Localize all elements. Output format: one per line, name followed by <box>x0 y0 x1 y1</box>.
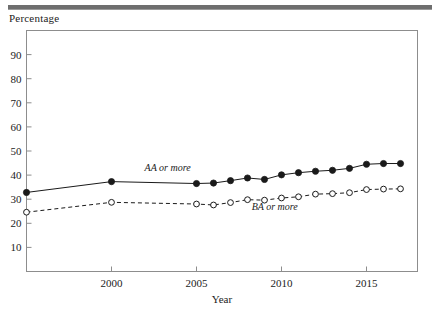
figure-container: Percentage 102030405060708090 2000200520… <box>0 0 438 312</box>
data-point-marker <box>261 176 267 182</box>
series-label: BA or more <box>252 201 299 212</box>
y-tick-label: 10 <box>11 241 23 253</box>
data-point-marker <box>346 165 352 171</box>
x-tick-label: 2010 <box>271 277 294 289</box>
data-point-marker <box>278 172 284 178</box>
data-point-marker <box>381 186 387 192</box>
data-point-marker <box>329 167 335 173</box>
data-point-marker <box>244 175 250 181</box>
data-point-marker <box>108 179 114 185</box>
y-tick-label: 60 <box>11 121 23 133</box>
data-point-marker <box>193 180 199 186</box>
x-tick-label: 2015 <box>356 277 379 289</box>
y-tick-label: 70 <box>11 97 23 109</box>
y-tick-label: 40 <box>11 169 23 181</box>
data-point-marker <box>227 178 233 184</box>
series-annotations: AA or moreBA or more <box>144 162 299 211</box>
data-point-marker <box>330 191 336 197</box>
data-point-marker <box>210 180 216 186</box>
data-point-marker <box>398 186 404 192</box>
data-point-marker <box>296 194 302 200</box>
data-point-marker <box>380 160 386 166</box>
plot-frame <box>27 31 418 272</box>
series-markers <box>23 160 403 215</box>
data-point-marker <box>211 202 217 208</box>
series-line <box>27 189 401 212</box>
data-point-marker <box>194 201 200 207</box>
data-point-marker <box>397 160 403 166</box>
y-tick-group: 102030405060708090 <box>11 49 32 254</box>
data-point-marker <box>245 197 251 203</box>
data-point-marker <box>363 161 369 167</box>
data-point-marker <box>295 170 301 176</box>
line-chart: 102030405060708090 2000200520102015 AA o… <box>0 0 438 312</box>
data-point-marker <box>312 168 318 174</box>
y-tick-label: 80 <box>11 73 23 85</box>
series-line <box>27 164 401 193</box>
x-tick-label: 2000 <box>101 277 124 289</box>
x-axis-title: Year <box>212 293 233 305</box>
data-point-marker <box>313 191 319 197</box>
y-tick-label: 90 <box>11 49 23 61</box>
data-point-marker <box>24 209 30 215</box>
data-point-marker <box>109 199 115 205</box>
y-tick-label: 50 <box>11 145 23 157</box>
y-tick-label: 30 <box>11 193 23 205</box>
y-tick-label: 20 <box>11 217 23 229</box>
data-point-marker <box>228 200 234 206</box>
x-tick-label: 2005 <box>186 277 209 289</box>
data-point-marker <box>347 190 353 196</box>
x-tick-group: 2000200520102015 <box>101 267 379 289</box>
data-point-marker <box>23 189 29 195</box>
series-label: AA or more <box>144 162 192 173</box>
data-point-marker <box>364 187 370 193</box>
